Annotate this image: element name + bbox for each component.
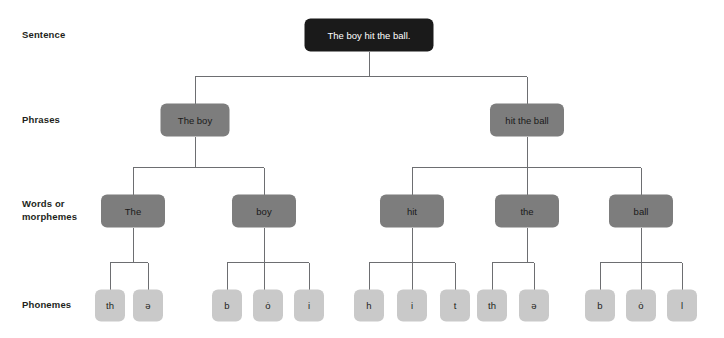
node-phoneme-i-1[interactable]: i	[294, 290, 324, 322]
language-hierarchy-diagram: Sentence Phrases Words or morphemes Phon…	[0, 0, 724, 338]
node-phoneme-schwa-1[interactable]: ə	[133, 290, 163, 322]
node-phoneme-i-2[interactable]: i	[397, 290, 427, 322]
row-label-words-line2: morphemes	[22, 211, 77, 222]
node-phoneme-th-1[interactable]: th	[95, 290, 125, 322]
node-word-ball[interactable]: ball	[609, 195, 673, 228]
node-phoneme-th-2-label: th	[488, 300, 496, 311]
node-phoneme-l-label: l	[681, 300, 683, 311]
node-phoneme-o-dot-1[interactable]: ȯ	[253, 290, 283, 322]
node-phoneme-b-1-label: b	[224, 300, 229, 311]
node-phoneme-b-1[interactable]: b	[212, 290, 242, 322]
node-word-the-2-label: the	[520, 206, 533, 217]
node-phoneme-t-label: t	[454, 300, 457, 311]
row-label-sentence: Sentence	[22, 29, 65, 40]
node-word-hit[interactable]: hit	[380, 195, 444, 228]
node-word-boy[interactable]: boy	[232, 195, 296, 228]
node-phoneme-b-2-label: b	[597, 300, 602, 311]
node-phoneme-schwa-1-label: ə	[145, 300, 150, 311]
row-label-phrases: Phrases	[22, 114, 60, 125]
node-word-the-1-label: The	[125, 206, 141, 217]
node-phoneme-h-label: h	[366, 300, 371, 311]
node-word-ball-label: ball	[634, 206, 649, 217]
node-word-the-2[interactable]: the	[495, 195, 559, 228]
node-phoneme-i-2-label: i	[411, 300, 413, 311]
node-phoneme-b-2[interactable]: b	[585, 290, 615, 322]
node-phoneme-i-1-label: i	[308, 300, 310, 311]
node-phoneme-schwa-2-label: ə	[531, 300, 536, 311]
node-phoneme-schwa-2[interactable]: ə	[519, 290, 549, 322]
node-phrase-hit-the-ball-label: hit the ball	[505, 115, 548, 126]
row-label-words-line1: Words or	[22, 198, 65, 209]
node-phoneme-o-dot-2-label: ȯ	[638, 300, 643, 311]
node-sentence[interactable]: The boy hit the ball.	[305, 19, 434, 52]
node-phoneme-l[interactable]: l	[667, 290, 697, 322]
node-sentence-label: The boy hit the ball.	[328, 30, 411, 41]
node-word-boy-label: boy	[256, 206, 272, 217]
node-phoneme-th-1-label: th	[106, 300, 114, 311]
node-phrase-hit-the-ball[interactable]: hit the ball	[490, 104, 564, 137]
row-label-phonemes: Phonemes	[22, 299, 71, 310]
node-phoneme-o-dot-1-label: ȯ	[265, 300, 270, 311]
node-phoneme-o-dot-2[interactable]: ȯ	[626, 290, 656, 322]
node-phrase-the-boy[interactable]: The boy	[161, 104, 230, 137]
node-phoneme-th-2[interactable]: th	[477, 290, 507, 322]
node-phoneme-t[interactable]: t	[440, 290, 470, 322]
node-phoneme-h[interactable]: h	[354, 290, 384, 322]
node-word-hit-label: hit	[407, 206, 417, 217]
node-phrase-the-boy-label: The boy	[178, 115, 213, 126]
node-word-the-1[interactable]: The	[101, 195, 165, 228]
